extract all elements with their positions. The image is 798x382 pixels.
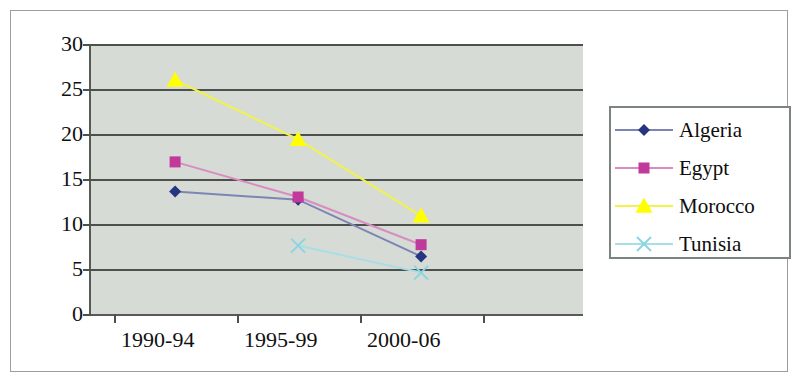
gridline [91,224,583,226]
legend-item-tunisia[interactable]: Tunisia [611,225,791,259]
y-axis-tick-label: 30 [37,33,83,55]
y-axis-tick-label: 0 [37,303,83,325]
y-axis-tick-label: 10 [37,213,83,235]
x-axis-tick-mark [114,314,116,323]
y-axis-tick-mark [83,224,91,226]
legend-marker-glyph [615,158,673,178]
y-axis-tick-mark [83,134,91,136]
y-axis-tick-label: 15 [37,168,83,190]
legend-marker-glyph [615,234,673,254]
legend-label: Algeria [679,120,742,141]
chart-legend: AlgeriaEgyptMoroccoTunisia [609,106,791,259]
legend-label: Morocco [679,196,755,217]
x-axis-tick-label: 1990-94 [121,329,194,351]
legend-item-algeria[interactable]: Algeria [611,111,791,149]
plot-area [89,44,583,316]
legend-label: Egypt [679,158,729,179]
y-axis-tick-mark [83,179,91,181]
y-axis-tick-label: 20 [37,123,83,145]
legend-item-morocco[interactable]: Morocco [611,187,791,225]
gridline [91,134,583,136]
gridline [91,44,583,46]
x-axis-tick-mark [360,314,362,323]
x-axis-tick-label: 2000-06 [367,329,440,351]
x-axis-tick-label: 1995-99 [244,329,317,351]
y-axis-tick-label: 5 [37,258,83,280]
y-axis: 302520151050 [21,44,83,314]
gridline [91,269,583,271]
x-axis-tick-mark [483,314,485,323]
legend-marker-glyph [615,120,673,140]
gridline [91,179,583,181]
x-axis-tick-mark [237,314,239,323]
y-axis-tick-mark [83,314,91,316]
legend-marker-glyph [615,196,673,216]
legend-item-egypt[interactable]: Egypt [611,149,791,187]
y-axis-tick-mark [83,44,91,46]
legend-marker-icon [615,120,673,140]
y-axis-tick-mark [83,89,91,91]
chart-figure: 302520151050 1990-941995-992000-06 Alger… [10,10,788,372]
legend-marker-icon [615,234,673,254]
legend-marker-icon [615,196,673,216]
y-axis-tick-label: 25 [37,78,83,100]
legend-label: Tunisia [679,234,741,255]
y-axis-tick-mark [83,269,91,271]
legend-marker-icon [615,158,673,178]
gridline [91,89,583,91]
